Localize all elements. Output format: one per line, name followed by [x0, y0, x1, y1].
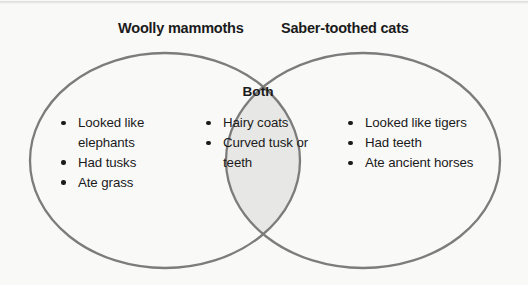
list-item-label: Hairy coats	[223, 115, 288, 130]
list-item: Had tusks	[58, 153, 176, 173]
list-item: Ate grass	[58, 173, 176, 193]
venn-diagram: Woolly mammoths Saber-toothed cats Both …	[0, 0, 528, 285]
intersection-title: Both	[203, 84, 313, 99]
list-item: Hairy coats	[203, 113, 313, 133]
intersection-list: Hairy coats Curved tusk or teeth	[203, 113, 313, 173]
right-set-list: Looked like tigers Had teeth Ate ancient…	[345, 113, 495, 173]
list-item: Looked like elephants	[58, 113, 176, 152]
left-set-title: Woolly mammoths	[118, 20, 244, 36]
list-item-label: Curved tusk or teeth	[223, 135, 308, 170]
left-set-list: Looked like elephants Had tusks Ate gras…	[58, 113, 176, 193]
list-item-label: Ate grass	[78, 175, 133, 190]
list-item: Had teeth	[345, 133, 495, 153]
list-item-label: Looked like tigers	[365, 115, 467, 130]
right-set-title: Saber-toothed cats	[281, 20, 409, 36]
list-item-label: Had teeth	[365, 135, 422, 150]
list-item: Curved tusk or teeth	[203, 133, 313, 172]
list-item-label: Looked like elephants	[78, 115, 144, 150]
list-item: Ate ancient horses	[345, 153, 495, 173]
list-item-label: Ate ancient horses	[365, 155, 473, 170]
list-item: Looked like tigers	[345, 113, 495, 133]
list-item-label: Had tusks	[78, 155, 136, 170]
